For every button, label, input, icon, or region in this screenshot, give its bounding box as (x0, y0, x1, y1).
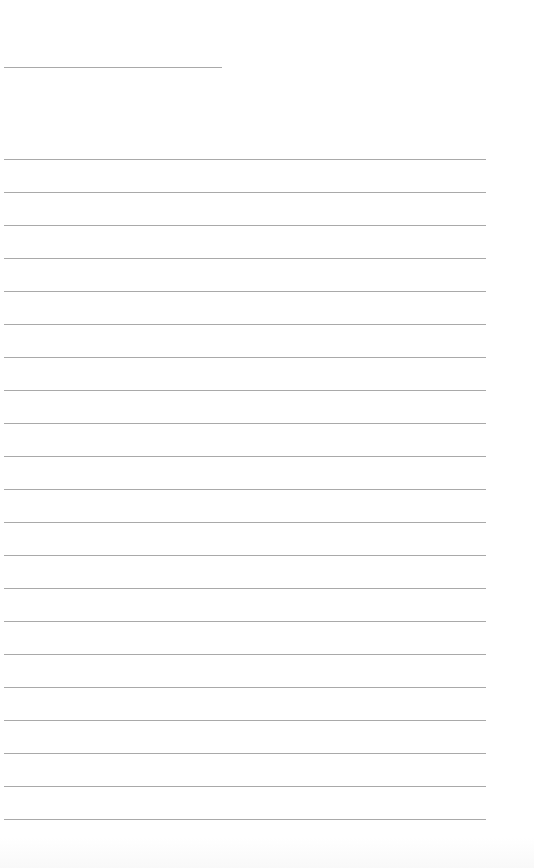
ruled-line (4, 489, 486, 490)
ruled-line (4, 753, 486, 754)
ruled-line (4, 819, 486, 820)
ruled-line (4, 456, 486, 457)
ruled-line (4, 258, 486, 259)
page-bottom-edge (0, 838, 534, 868)
ruled-lines-container (0, 0, 534, 868)
ruled-line (4, 390, 486, 391)
ruled-line (4, 423, 486, 424)
ruled-line (4, 225, 486, 226)
ruled-line (4, 522, 486, 523)
ruled-line (4, 555, 486, 556)
ruled-line (4, 786, 486, 787)
ruled-line (4, 588, 486, 589)
ruled-line (4, 192, 486, 193)
ruled-line (4, 159, 486, 160)
ruled-line (4, 687, 486, 688)
ruled-line (4, 324, 486, 325)
ruled-line (4, 621, 486, 622)
ruled-line (4, 654, 486, 655)
ruled-line (4, 291, 486, 292)
ruled-line (4, 720, 486, 721)
lined-paper-page (0, 0, 534, 868)
ruled-line (4, 357, 486, 358)
